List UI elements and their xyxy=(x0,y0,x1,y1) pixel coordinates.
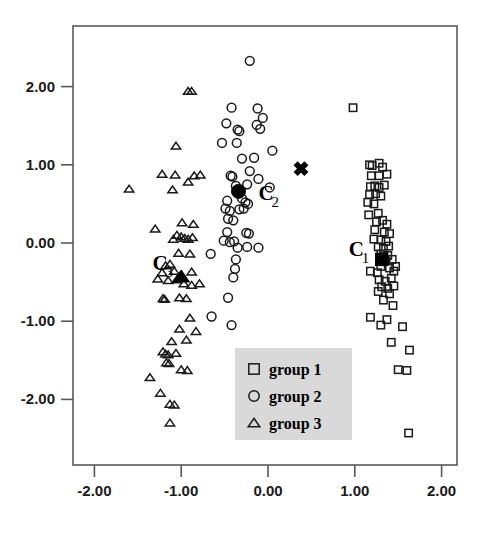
data-point-square xyxy=(375,172,382,179)
x-tick-label: 0.00 xyxy=(253,482,282,499)
data-point-triangle xyxy=(174,249,183,256)
cluster-centroids: C1C2C3 xyxy=(153,181,388,282)
data-point-square xyxy=(381,181,388,188)
x-tick-label: 1.00 xyxy=(340,482,369,499)
y-tick-label: 0.00 xyxy=(26,234,55,251)
data-point-square xyxy=(405,429,412,436)
legend[interactable]: group 1group 2group 3 xyxy=(235,348,352,440)
y-tick-label: 2.00 xyxy=(26,78,55,95)
extra-markers xyxy=(296,163,307,174)
data-point-triangle xyxy=(171,349,180,356)
data-point-triangle xyxy=(177,219,186,226)
x-tick-label: -2.00 xyxy=(77,482,111,499)
data-point-circle xyxy=(254,243,263,252)
data-point-triangle xyxy=(150,225,159,232)
legend-label: group 3 xyxy=(269,415,322,433)
data-point-circle xyxy=(224,293,233,302)
data-point-circle xyxy=(253,104,262,113)
data-point-circle xyxy=(243,243,252,252)
x-tick-label: -1.00 xyxy=(164,482,198,499)
data-point-square xyxy=(406,346,413,353)
data-point-triangle xyxy=(191,328,200,335)
data-point-triangle xyxy=(157,170,166,177)
data-point-square xyxy=(385,242,392,249)
data-point-triangle xyxy=(165,419,174,426)
data-point-circle xyxy=(245,167,254,176)
data-point-triangle xyxy=(196,171,205,178)
data-point-circle xyxy=(223,228,232,237)
data-point-circle xyxy=(238,154,247,163)
data-point-circle xyxy=(231,255,240,264)
scatter-plot-figure: -2.00-1.000.001.002.00 2.001.000.00-1.00… xyxy=(0,0,487,535)
data-point-square xyxy=(388,339,395,346)
data-point-triangle xyxy=(195,280,204,287)
data-point-triangle xyxy=(182,336,191,343)
data-point-square xyxy=(365,211,372,218)
data-point-circle xyxy=(227,103,236,112)
data-point-circle xyxy=(229,273,238,282)
data-point-circle xyxy=(231,264,240,273)
data-point-triangle xyxy=(145,374,154,381)
data-point-circle xyxy=(207,312,216,321)
data-point-circle xyxy=(229,216,238,225)
data-point-square xyxy=(389,302,396,309)
centroid-label-sub-c2: 2 xyxy=(271,194,279,210)
data-point-triangle xyxy=(156,389,165,396)
plot-canvas: -2.00-1.000.001.002.00 2.001.000.00-1.00… xyxy=(0,0,487,535)
data-point-triangle xyxy=(168,186,177,193)
y-axis: 2.001.000.00-1.00-2.00 xyxy=(21,78,73,408)
centroid-marker-c2 xyxy=(231,184,245,198)
data-point-triangle xyxy=(185,250,194,257)
data-point-square xyxy=(377,192,384,199)
data-point-circle xyxy=(268,146,277,155)
centroid-marker-c1 xyxy=(376,253,388,265)
x-axis: -2.00-1.000.001.002.00 xyxy=(77,465,456,499)
data-point-circle xyxy=(250,153,259,162)
data-point-square xyxy=(371,226,378,233)
data-point-circle xyxy=(219,236,228,245)
data-point-triangle xyxy=(189,220,198,227)
data-point-triangle xyxy=(171,142,180,149)
data-point-triangle xyxy=(187,268,196,275)
centroid-label-sub-c3: 3 xyxy=(166,264,174,280)
legend-label: group 2 xyxy=(269,388,322,406)
data-point-triangle xyxy=(167,338,176,345)
data-point-triangle xyxy=(124,185,133,192)
data-point-circle xyxy=(245,56,254,65)
data-point-square xyxy=(395,366,402,373)
data-point-triangle xyxy=(175,325,184,332)
data-point-square xyxy=(399,323,406,330)
data-point-square xyxy=(403,367,410,374)
series-group-1-points xyxy=(349,104,413,437)
y-tick-label: -2.00 xyxy=(21,390,55,407)
data-point-circle xyxy=(222,119,231,128)
y-tick-label: -1.00 xyxy=(21,312,55,329)
x-marker xyxy=(296,163,307,174)
data-point-square xyxy=(349,104,356,111)
data-point-square xyxy=(367,314,374,321)
data-point-triangle xyxy=(185,314,194,321)
centroid-marker-c3 xyxy=(173,270,190,282)
legend-label: group 1 xyxy=(269,361,322,379)
data-point-circle xyxy=(232,139,241,148)
centroid-label-sub-c1: 1 xyxy=(362,250,370,266)
data-point-triangle xyxy=(170,171,179,178)
data-point-square xyxy=(368,172,375,179)
data-point-circle xyxy=(206,250,215,259)
y-tick-label: 1.00 xyxy=(26,156,55,173)
x-tick-label: 2.00 xyxy=(427,482,456,499)
data-point-circle xyxy=(218,139,227,148)
data-point-circle xyxy=(227,321,236,330)
